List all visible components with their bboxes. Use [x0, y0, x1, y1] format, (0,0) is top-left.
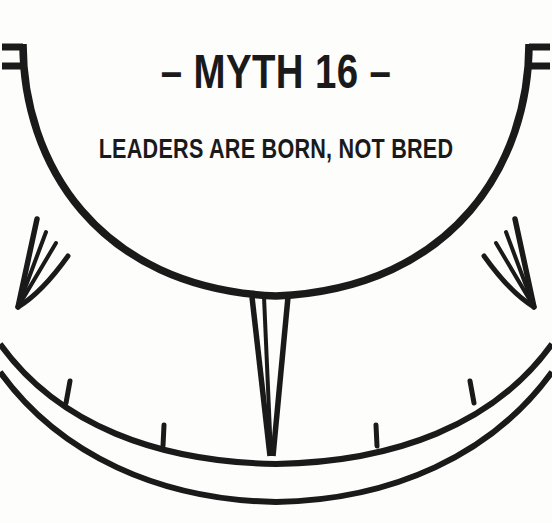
center-spike: [252, 297, 288, 456]
right-spike: [484, 219, 534, 307]
tick-mark: [163, 425, 164, 446]
tick-mark: [376, 425, 377, 446]
illustration-page: – MYTH 16 – LEADERS ARE BORN, NOT BRED: [0, 0, 552, 523]
wheel-illustration: [0, 0, 552, 523]
tick-mark: [66, 381, 70, 403]
tick-mark: [470, 381, 474, 403]
left-spike: [18, 219, 68, 307]
bowl-arc: [23, 44, 529, 296]
